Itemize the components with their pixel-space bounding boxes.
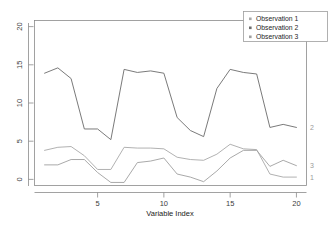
- series-line-2: [45, 68, 297, 140]
- series-end-labels: 123: [310, 124, 314, 181]
- series-end-label-2: 2: [310, 124, 314, 131]
- legend-marker-3: [249, 36, 252, 39]
- y-tick-label: 5: [15, 139, 24, 143]
- y-tick-label: 15: [15, 61, 24, 69]
- line-chart: 05101520 5101520 123 Variable Index Obse…: [0, 0, 334, 233]
- legend-label-1: Observation 1: [256, 15, 299, 22]
- series-end-label-1: 1: [310, 174, 314, 181]
- chart-container: 05101520 5101520 123 Variable Index Obse…: [0, 0, 334, 233]
- legend: Observation 1Observation 2Observation 3: [244, 12, 328, 42]
- legend-marker-2: [249, 27, 252, 30]
- legend-marker-1: [249, 18, 252, 21]
- x-tick-label: 20: [292, 199, 300, 208]
- series-end-label-3: 3: [310, 162, 314, 169]
- y-axis: 05101520: [15, 22, 34, 186]
- legend-label-3: Observation 3: [256, 33, 299, 40]
- y-tick-label: 10: [15, 99, 24, 107]
- x-tick-label: 15: [226, 199, 234, 208]
- x-tick-label: 10: [160, 199, 168, 208]
- y-tick-group: 05101520: [15, 22, 34, 181]
- x-axis-label: Variable Index: [146, 209, 194, 218]
- x-tick-label: 5: [96, 199, 100, 208]
- y-tick-label: 20: [15, 22, 24, 30]
- series-group: [45, 68, 297, 183]
- x-tick-group: 5101520: [96, 193, 301, 209]
- legend-items: Observation 1Observation 2Observation 3: [249, 15, 299, 40]
- x-axis: 5101520: [35, 193, 307, 209]
- y-tick-label: 0: [15, 177, 24, 181]
- series-line-1: [45, 144, 297, 177]
- legend-label-2: Observation 2: [256, 24, 299, 31]
- series-line-3: [45, 150, 297, 182]
